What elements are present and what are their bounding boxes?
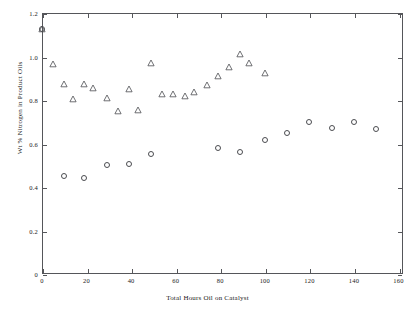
y-tick-0.6 <box>43 145 47 146</box>
x-tick-label: 80 <box>217 277 224 284</box>
x-tick-top-80 <box>221 14 222 18</box>
y-tick-right-0.2 <box>398 232 402 233</box>
x-tick-40 <box>132 269 133 273</box>
y-tick-0.8 <box>43 101 47 102</box>
y-tick-right-1.2 <box>398 14 402 15</box>
scatter-plot-figure: 02040608010012014016000.20.40.60.81.01.2… <box>0 0 415 314</box>
x-tick-label: 0 <box>40 277 43 284</box>
x-tick-label: 100 <box>260 277 270 284</box>
x-tick-160 <box>400 269 401 273</box>
y-tick-right-0.4 <box>398 188 402 189</box>
x-tick-label: 20 <box>83 277 90 284</box>
y-tick-1.2 <box>43 14 47 15</box>
y-tick-right-0.8 <box>398 101 402 102</box>
y-tick-1.0 <box>43 58 47 59</box>
x-tick-top-100 <box>266 14 267 18</box>
x-tick-0 <box>43 269 44 273</box>
x-tick-top-40 <box>132 14 133 18</box>
x-tick-label: 60 <box>172 277 179 284</box>
x-tick-label: 160 <box>393 277 403 284</box>
x-tick-80 <box>221 269 222 273</box>
y-tick-right-1.0 <box>398 58 402 59</box>
x-tick-120 <box>310 269 311 273</box>
y-tick-0.4 <box>43 188 47 189</box>
x-tick-140 <box>355 269 356 273</box>
x-tick-top-120 <box>310 14 311 18</box>
x-tick-label: 140 <box>349 277 359 284</box>
y-axis-label: Wt % Nitrogen in Product Oils <box>16 28 24 188</box>
x-tick-60 <box>177 269 178 273</box>
y-tick-right-0.6 <box>398 145 402 146</box>
y-tick-0 <box>43 275 47 276</box>
x-tick-top-20 <box>88 14 89 18</box>
y-tick-label: 0 <box>14 271 38 278</box>
y-tick-right-0 <box>398 275 402 276</box>
x-tick-20 <box>88 269 89 273</box>
x-tick-top-60 <box>177 14 178 18</box>
x-tick-top-140 <box>355 14 356 18</box>
x-tick-label: 120 <box>304 277 314 284</box>
x-tick-label: 40 <box>128 277 135 284</box>
y-tick-0.2 <box>43 232 47 233</box>
x-tick-100 <box>266 269 267 273</box>
y-tick-label: 1.2 <box>14 10 38 17</box>
x-axis-label: Total Hours Oil on Catalyst <box>0 294 415 302</box>
plot-area <box>42 13 403 274</box>
y-tick-label: 0.2 <box>14 227 38 234</box>
